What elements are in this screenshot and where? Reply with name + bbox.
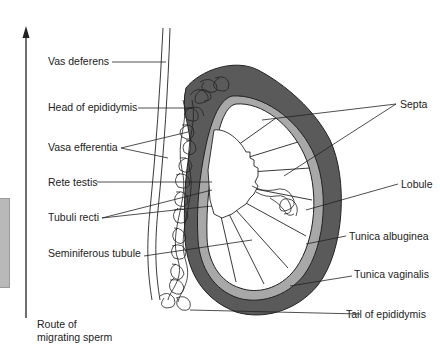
label-vas-deferens: Vas deferens — [48, 55, 109, 67]
label-lobule: Lobule — [401, 178, 433, 190]
testis-diagram: Vas deferens Head of epididymis Vasa eff… — [0, 0, 440, 360]
label-rete-testis: Rete testis — [48, 176, 98, 188]
label-tail-of-epididymis: Tail of epididymis — [346, 308, 426, 320]
label-route-line2: migrating sperm — [37, 331, 112, 343]
label-route-line1: Route of — [37, 318, 77, 330]
route-arrow-icon — [23, 26, 30, 318]
label-head-of-epididymis: Head of epididymis — [48, 101, 137, 113]
label-vasa-efferentia: Vasa efferentia — [48, 141, 118, 153]
label-seminiferous-tubule: Seminiferous tubule — [48, 247, 141, 259]
label-tubuli-recti: Tubuli recti — [48, 211, 99, 223]
label-tunica-albuginea: Tunica albuginea — [349, 230, 429, 242]
label-septa: Septa — [400, 98, 427, 110]
label-tunica-vaginalis: Tunica vaginalis — [354, 268, 429, 280]
vas-deferens — [148, 28, 170, 300]
